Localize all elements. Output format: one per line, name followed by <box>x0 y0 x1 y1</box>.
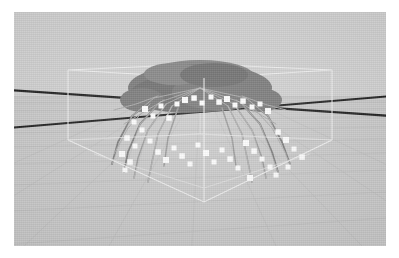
screenshot-root <box>0 0 399 258</box>
joint-marker[interactable] <box>123 168 128 173</box>
joint-marker[interactable] <box>203 150 209 156</box>
joint-marker[interactable] <box>216 99 222 105</box>
joint-marker[interactable] <box>151 114 156 119</box>
joint-marker[interactable] <box>233 103 238 108</box>
joint-marker[interactable] <box>283 137 289 143</box>
joint-marker[interactable] <box>119 151 125 157</box>
joint-marker[interactable] <box>166 115 172 121</box>
joint-marker[interactable] <box>292 147 297 152</box>
joint-marker[interactable] <box>243 140 249 146</box>
joint-marker[interactable] <box>275 129 281 135</box>
joint-marker[interactable] <box>200 101 205 106</box>
joint-marker[interactable] <box>127 159 133 165</box>
joint-marker[interactable] <box>133 144 138 149</box>
joint-marker[interactable] <box>196 143 201 148</box>
joint-markers-layer[interactable] <box>14 12 386 246</box>
joint-marker[interactable] <box>175 102 180 107</box>
joint-marker[interactable] <box>260 157 265 162</box>
joint-marker[interactable] <box>227 156 233 162</box>
joint-marker[interactable] <box>265 108 271 114</box>
joint-marker[interactable] <box>258 102 263 107</box>
joint-marker[interactable] <box>251 148 256 154</box>
joint-marker[interactable] <box>247 175 253 181</box>
3d-viewport[interactable] <box>14 12 386 246</box>
joint-marker[interactable] <box>148 139 153 144</box>
joint-marker[interactable] <box>172 146 177 151</box>
joint-marker[interactable] <box>250 105 255 110</box>
joint-marker[interactable] <box>286 165 291 170</box>
joint-marker[interactable] <box>142 106 148 112</box>
joint-marker[interactable] <box>209 95 214 100</box>
joint-marker[interactable] <box>274 173 279 178</box>
joint-marker[interactable] <box>212 160 217 165</box>
joint-marker[interactable] <box>236 166 241 171</box>
joint-marker[interactable] <box>268 165 273 170</box>
joint-marker[interactable] <box>299 154 305 160</box>
joint-marker[interactable] <box>163 157 169 163</box>
joint-marker[interactable] <box>220 148 225 153</box>
joint-marker[interactable] <box>182 97 188 103</box>
joint-marker[interactable] <box>140 128 145 133</box>
joint-marker[interactable] <box>224 96 230 102</box>
joint-marker[interactable] <box>179 153 185 159</box>
joint-marker[interactable] <box>191 95 197 101</box>
joint-marker[interactable] <box>124 135 130 141</box>
joint-marker[interactable] <box>132 120 137 125</box>
joint-marker[interactable] <box>188 162 193 167</box>
joint-marker[interactable] <box>155 149 161 155</box>
joint-marker[interactable] <box>159 104 164 109</box>
joint-marker[interactable] <box>240 98 246 104</box>
